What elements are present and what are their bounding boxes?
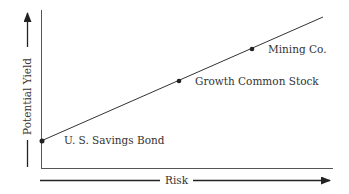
x-axis-label: Risk <box>165 174 189 186</box>
label-savings-bond: U. S. Savings Bond <box>64 134 165 146</box>
label-growth-stock: Growth Common Stock <box>195 75 319 87</box>
label-mining-co: Mining Co. <box>268 43 327 55</box>
point-mining-co <box>250 47 255 52</box>
point-growth-stock <box>177 79 182 84</box>
risk-yield-diagram: U. S. Savings Bond Growth Common Stock M… <box>0 0 349 194</box>
point-savings-bond <box>40 139 45 144</box>
y-axis-label: Potential Yield <box>21 58 33 135</box>
